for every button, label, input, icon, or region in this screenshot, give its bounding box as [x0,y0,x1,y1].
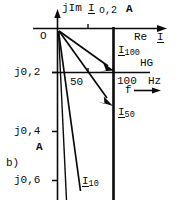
y-tick-label-2: j0,6 [14,175,40,186]
current-unit-label: A [36,142,43,153]
phasor-underline-I-im: I [88,3,95,14]
figure-caption: b) [6,158,19,169]
vector-label-I50: I50 [118,107,135,118]
vector-subscript-10: 10 [89,179,99,189]
y-tick-label-1: j0,4 [14,126,40,137]
figure-drawing [0,0,182,202]
real-axis-symbol: I [157,32,164,43]
frequency-unit-label: Hz [148,76,161,87]
origin-label: O [40,31,47,42]
phasor-underline-I50: I [118,107,125,118]
device-label-hg: HG [140,58,153,69]
frequency-axis-label: f [125,85,132,96]
phasor-underline-I-re: I [157,32,164,43]
complex-plane-locus-figure: jIm I o,2 A Re I O I100 HG j0,2 50 100 H… [0,0,182,202]
y-tick-label-0: j0,2 [14,67,40,78]
phasor-underline-I100: I [118,45,125,56]
frequency-axis [52,67,150,73]
frequency-arrow [134,87,161,93]
scale-unit-label: A [126,4,133,15]
imaginary-axis-unit-symbol: I [88,3,95,14]
imaginary-axis-label: jIm [62,3,82,14]
vector-subscript-50: 50 [125,110,135,120]
vector-label-I100: I100 [118,45,140,56]
real-axis-label: Re [134,32,147,43]
phasor-underline-I10: I [82,176,89,187]
vector-label-I10: I10 [82,176,99,187]
phasor-I100-arrow [59,31,114,72]
scale-label: o,2 [99,6,117,16]
vector-subscript-100: 100 [125,48,140,58]
x-tick-label-50: 50 [70,77,83,88]
